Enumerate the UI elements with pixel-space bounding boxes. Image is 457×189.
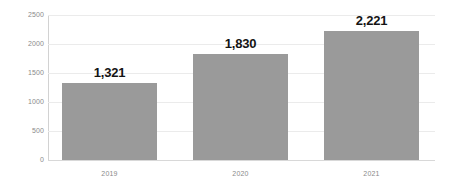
bar-group-2021: 2,221 2021 [324,15,419,160]
bar-value-2020: 1,830 [225,36,257,51]
bar-value-2021: 2,221 [356,13,388,28]
y-tick-label-1000: 1000 [4,98,44,106]
y-tick-label-500: 500 [4,127,44,135]
bar-2020[interactable] [193,54,288,160]
y-tick-label-2000: 2000 [4,40,44,48]
bar-value-2019: 1,321 [94,65,126,80]
y-tick-label-0: 0 [4,156,44,164]
bars-layer: 1,321 2019 1,830 2020 2,221 2021 [48,0,435,189]
y-tick-label-2500: 2500 [4,11,44,19]
bar-2019[interactable] [62,83,157,160]
bar-category-2020: 2020 [232,170,248,177]
bar-group-2019: 1,321 2019 [62,15,157,160]
bar-group-2020: 1,830 2020 [193,15,288,160]
bar-chart: 2500 2000 1500 1000 500 0 1,321 2019 1,8… [0,0,457,189]
y-axis-tick-labels: 2500 2000 1500 1000 500 0 [0,0,44,189]
bar-category-2019: 2019 [101,170,117,177]
y-tick-label-1500: 1500 [4,69,44,77]
bar-category-2021: 2021 [363,170,379,177]
bar-2021[interactable] [324,31,419,160]
